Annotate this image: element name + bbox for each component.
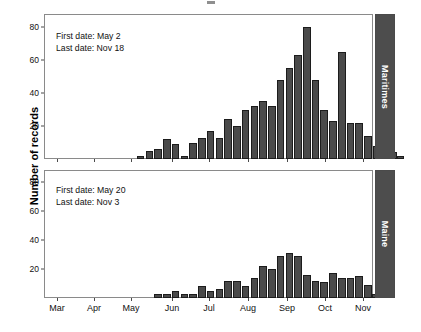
x-tick-label: Apr — [87, 303, 101, 313]
y-tick-mark — [41, 126, 44, 127]
bar — [312, 80, 320, 159]
bar — [259, 101, 267, 159]
strip-label-maine: Maine — [380, 221, 390, 248]
x-tick-label: Jul — [203, 303, 215, 313]
first-date-label: First date: May 2 — [56, 30, 124, 42]
bar — [137, 156, 145, 159]
bar — [216, 138, 224, 159]
bar — [233, 281, 241, 298]
annotation-maine: First date: May 20 Last date: Nov 3 — [56, 184, 126, 208]
bar — [224, 281, 232, 298]
x-tick-mark — [248, 298, 249, 301]
y-tick-mark — [41, 239, 44, 240]
x-tick-label: Mar — [49, 303, 65, 313]
x-tick-mark — [363, 159, 364, 162]
bar — [294, 256, 302, 298]
x-tick-mark — [57, 159, 58, 162]
bar — [146, 151, 154, 159]
x-tick-mark — [287, 159, 288, 162]
x-tick-mark — [363, 298, 364, 301]
strip-label-maritimes: Maritimes — [380, 65, 390, 109]
bar — [251, 278, 259, 298]
x-tick-mark — [94, 159, 95, 162]
bar — [320, 282, 328, 298]
y-tick-mark — [41, 93, 44, 94]
bar — [198, 138, 206, 159]
figure-root: Number of records First date: May 2 Last… — [0, 0, 421, 332]
annotation-maritimes: First date: May 2 Last date: Nov 18 — [56, 30, 124, 54]
bar — [189, 143, 197, 159]
bar — [347, 278, 355, 298]
x-tick-mark — [131, 298, 132, 301]
bar — [294, 55, 302, 159]
bar — [172, 144, 180, 159]
bar — [268, 269, 276, 298]
last-date-label: Last date: Nov 3 — [56, 196, 126, 208]
x-tick-mark — [325, 159, 326, 162]
title-remnant-mark — [207, 1, 215, 4]
bar — [364, 136, 372, 159]
x-tick-mark — [172, 298, 173, 301]
y-tick-mark — [41, 181, 44, 182]
x-tick-label: Jun — [165, 303, 180, 313]
bar — [189, 294, 197, 298]
panel-maine: First date: May 20 Last date: Nov 3 2040… — [44, 170, 373, 298]
bar — [320, 110, 328, 159]
first-date-label: First date: May 20 — [56, 184, 126, 196]
x-tick-label: Aug — [240, 303, 256, 313]
bar — [338, 52, 346, 159]
bar — [242, 110, 250, 159]
bar — [251, 106, 259, 159]
y-tick-mark — [41, 27, 44, 28]
bar — [207, 291, 215, 298]
bar — [277, 80, 285, 159]
bar — [286, 253, 294, 298]
x-tick-mark — [287, 298, 288, 301]
x-tick-mark — [209, 159, 210, 162]
x-tick-mark — [325, 298, 326, 301]
x-tick-mark — [209, 298, 210, 301]
y-tick-mark — [41, 60, 44, 61]
bar — [286, 68, 294, 159]
y-tick-mark — [41, 210, 44, 211]
last-date-label: Last date: Nov 18 — [56, 42, 124, 54]
bar — [268, 106, 276, 159]
bar — [163, 139, 171, 159]
bar — [303, 275, 311, 298]
x-tick-label: Oct — [318, 303, 332, 313]
panel-maritimes: First date: May 2 Last date: Nov 18 2040… — [44, 14, 373, 159]
bar — [347, 123, 355, 159]
bar — [242, 286, 250, 298]
bar — [216, 289, 224, 298]
bar — [163, 294, 171, 298]
bar — [154, 294, 162, 298]
y-tick-mark — [41, 268, 44, 269]
bar — [172, 291, 180, 298]
bar — [181, 294, 189, 298]
bar — [329, 273, 337, 298]
bar — [329, 121, 337, 159]
bar — [259, 266, 267, 298]
x-tick-mark — [94, 298, 95, 301]
bar — [303, 27, 311, 159]
bar — [355, 276, 363, 298]
bar — [154, 149, 162, 159]
x-tick-label: Nov — [355, 303, 371, 313]
bar — [207, 131, 215, 159]
bar — [277, 256, 285, 298]
x-tick-mark — [172, 159, 173, 162]
x-tick-label: May — [122, 303, 139, 313]
strip-maine: Maine — [375, 170, 395, 298]
bar — [338, 278, 346, 298]
strip-maritimes: Maritimes — [375, 14, 395, 159]
bar — [198, 286, 206, 298]
bar — [397, 156, 405, 159]
bar — [312, 281, 320, 298]
x-tick-mark — [57, 298, 58, 301]
bar — [224, 119, 232, 159]
bar — [233, 126, 241, 159]
bar — [181, 156, 189, 159]
x-tick-mark — [131, 159, 132, 162]
x-tick-mark — [248, 159, 249, 162]
x-tick-label: Sep — [279, 303, 295, 313]
